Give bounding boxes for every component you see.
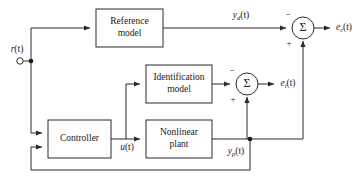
block-identification-model-line1: Identification (153, 72, 204, 82)
signal-label-plant-output: yp(t) (227, 146, 244, 157)
signal-reference-arg: (t) (14, 44, 23, 55)
block-identification-model[interactable]: Identification model (146, 65, 212, 103)
sigma-glyph-identification-error: Σ (244, 76, 251, 90)
summing-junction-control-error[interactable]: Σ − + (285, 9, 314, 48)
signal-label-control-signal: u(t) (120, 142, 134, 153)
reference-split-node (29, 59, 34, 64)
block-nonlinear-plant-line1: Nonlinear (160, 127, 199, 137)
block-reference-model[interactable]: Reference model (96, 9, 163, 47)
block-controller-line1: Controller (60, 133, 100, 143)
diagram-svg: Reference model Identification model Con… (0, 0, 364, 178)
sign-plus-control-error: + (286, 38, 291, 48)
signal-label-desired-output: yd(t) (232, 10, 249, 21)
signal-label-identification-error: ei(t) (281, 78, 296, 89)
sign-minus-control-error: − (285, 9, 290, 19)
svg-text:u(t): u(t) (120, 142, 134, 153)
block-controller[interactable]: Controller (48, 120, 111, 158)
svg-text:ec(t): ec(t) (336, 22, 352, 33)
sign-minus-identification-error: − (229, 65, 234, 75)
svg-text:r(t): r(t) (11, 44, 24, 55)
block-nonlinear-plant[interactable]: Nonlinear plant (146, 120, 212, 158)
svg-text:yd(t): yd(t) (232, 10, 249, 21)
block-reference-model-line2: model (118, 28, 142, 38)
block-identification-model-line2: model (167, 84, 191, 94)
block-diagram-canvas: Reference model Identification model Con… (0, 0, 364, 178)
signal-yp-arg: (t) (235, 146, 244, 157)
summing-junction-identification-error[interactable]: Σ − + (229, 65, 258, 104)
sigma-glyph-control-error: Σ (300, 20, 307, 34)
signal-label-control-error-output: ec(t) (336, 22, 352, 33)
signal-yd-arg: (t) (240, 10, 249, 21)
svg-text:ei(t): ei(t) (281, 78, 296, 89)
block-reference-model-line1: Reference (110, 16, 149, 26)
sign-plus-identification-error: + (230, 94, 235, 104)
plant-output-node (248, 137, 253, 142)
block-nonlinear-plant-line2: plant (170, 139, 189, 149)
signal-label-reference-input: r(t) (11, 44, 24, 55)
signal-ei-arg: (t) (287, 78, 296, 89)
signal-ec-arg: (t) (343, 22, 352, 33)
signal-u-arg: (t) (125, 142, 134, 153)
svg-text:yp(t): yp(t) (227, 146, 244, 157)
reference-input-terminal[interactable] (17, 58, 23, 64)
